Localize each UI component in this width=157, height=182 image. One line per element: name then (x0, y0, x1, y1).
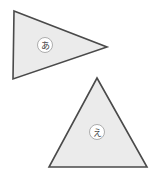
shape-group-triangle-a[interactable]: あ (13, 11, 107, 79)
figure-canvas: あ え (0, 0, 157, 182)
triangle-e-label-text: え (93, 128, 102, 138)
triangle-e-shape[interactable] (49, 78, 147, 167)
triangle-a-shape[interactable] (13, 11, 107, 79)
shape-group-triangle-e[interactable]: え (49, 78, 147, 167)
triangle-a-label-text: あ (41, 41, 50, 51)
figure-svg: あ え (0, 0, 157, 182)
